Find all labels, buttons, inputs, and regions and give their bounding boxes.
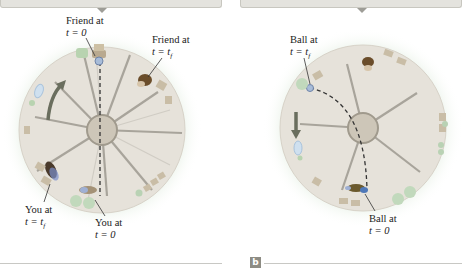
label-you-t0: You at t = 0 [95,217,122,241]
label-you-tf: You at t = tf [25,204,52,232]
panel-a: Friend at t = 0 Friend at t = tf You at … [0,0,222,273]
merry-go-round-b [240,0,462,273]
label-ball-t0: Ball at t = 0 [369,213,397,237]
label-friend-t0: Friend at t = 0 [66,15,104,39]
label-friend-tf: Friend at t = tf [152,34,190,62]
bottom-rule-b [264,263,462,264]
bottom-rule-a [0,263,222,264]
label-ball-tf: Ball at t = tf [290,34,318,62]
panel-letter-b: b [250,257,261,268]
panel-b: Ball at t = tf Ball at t = 0 b [240,0,462,273]
ball-icon [95,57,103,65]
